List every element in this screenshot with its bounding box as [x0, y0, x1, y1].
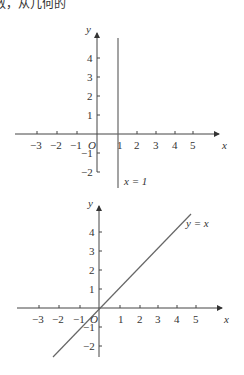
y-tick-label: −2	[81, 166, 93, 178]
x-tick-label: 3	[153, 139, 159, 151]
x-tick-label: 2	[137, 313, 143, 325]
x-tick-label: 1	[118, 313, 124, 325]
x-tick-label: −2	[50, 139, 62, 151]
x-tick-label: −2	[52, 313, 64, 325]
x-tick-label: 5	[193, 313, 199, 325]
y-tick-label: 2	[89, 264, 95, 276]
x-axis-label: x	[223, 313, 229, 325]
y-tick-label: −1	[83, 321, 95, 333]
y-tick-label: 4	[89, 226, 95, 238]
line-label: y = x	[185, 217, 209, 229]
y-axis-label: y	[85, 23, 91, 35]
x-tick-label: 5	[190, 139, 196, 151]
x-tick-label: 4	[174, 313, 180, 325]
x-tick-label: −1	[70, 139, 82, 151]
x-tick-label: 4	[172, 139, 178, 151]
x-tick-label: −3	[30, 139, 42, 151]
x-tick-label: 3	[155, 313, 161, 325]
y-tick-label: 1	[89, 283, 95, 295]
x-tick-label: 1	[117, 139, 123, 151]
y-tick-label: 2	[87, 90, 93, 102]
y-tick-label: −1	[81, 147, 93, 159]
y-tick-label: 1	[87, 109, 93, 121]
line-label: x = 1	[123, 175, 147, 187]
x-tick-label: 2	[134, 139, 140, 151]
y-tick-label: 3	[89, 245, 95, 257]
diagram-canvas: y x O −3 −2 −1 1 2 3 4 5 4 3 2 1 −1 −2 x…	[0, 0, 244, 375]
y-tick-label: 4	[87, 52, 93, 64]
y-axis-label: y	[87, 197, 93, 209]
x-tick-label: −3	[32, 313, 44, 325]
x-axis-label: x	[221, 139, 227, 151]
y-tick-label: 3	[87, 71, 93, 83]
graph-y-equals-x: y x O −3 −2 −1 1 2 3 4 5 4 3 2 1 −1 −2 y…	[17, 197, 229, 357]
graph-x-equals-1: y x O −3 −2 −1 1 2 3 4 5 4 3 2 1 −1 −2 x…	[15, 23, 227, 188]
line-y-equals-x	[53, 214, 191, 357]
y-tick-label: −2	[83, 340, 95, 352]
